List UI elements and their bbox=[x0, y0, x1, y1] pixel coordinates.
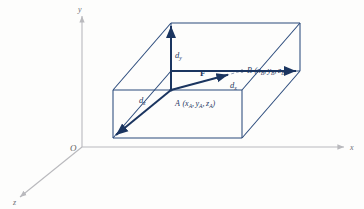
force-vector-F-label: F bbox=[200, 68, 206, 78]
point-A-label: A(xA,yA,zA) bbox=[174, 99, 216, 109]
box-edge-depth-topright bbox=[242, 23, 300, 90]
component-dx-label: dx bbox=[230, 80, 237, 91]
box-edge-depth-bottomright bbox=[242, 71, 300, 138]
component-dz-arrow bbox=[116, 90, 171, 135]
origin-label: O bbox=[70, 143, 77, 153]
component-dz-label: dz bbox=[139, 95, 146, 106]
point-B-marker bbox=[240, 69, 243, 72]
x-axis-label: x bbox=[349, 143, 354, 152]
figure-canvas: y x z O bbox=[0, 0, 364, 209]
y-axis-label: y bbox=[77, 5, 82, 14]
point-A-marker bbox=[169, 88, 172, 91]
component-dy-label: dy bbox=[175, 50, 182, 61]
vector-diagram: y x z O bbox=[0, 0, 364, 209]
z-axis-label: z bbox=[12, 198, 17, 207]
z-axis-line bbox=[20, 147, 82, 197]
box-edge-depth-topleft bbox=[113, 23, 171, 90]
